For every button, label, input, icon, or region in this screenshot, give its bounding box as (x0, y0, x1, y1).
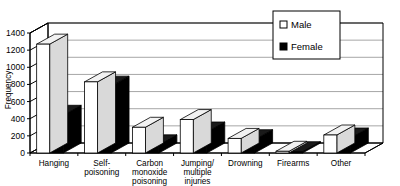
bar-front (276, 151, 289, 153)
bar-side (50, 34, 68, 153)
y-axis-tick-label: 400 (11, 114, 25, 124)
x-axis-category-label: Carbonmonoxidepoisoning (132, 159, 168, 186)
bar-front (132, 127, 145, 153)
x-axis-category-label: Hanging (39, 159, 70, 168)
chart-container: 0200400600800100012001400 HangingSelf-po… (0, 0, 400, 186)
x-axis-category-label: Other (331, 159, 352, 168)
y-axis-tick-label: 1400 (6, 28, 25, 38)
x-axis-category-label: Drowning (228, 159, 263, 168)
y-axis-tick-label: 200 (11, 131, 25, 141)
legend: Male Female (273, 11, 340, 59)
bar-front (324, 135, 337, 153)
x-axis-category-label: Jumping/multipleinjuries (181, 159, 215, 186)
bar-front (228, 138, 241, 153)
legend-swatch-female-icon (280, 43, 287, 50)
x-axis-category-label: Self-poisoning (84, 159, 119, 177)
bar-side (98, 72, 116, 153)
x-axis-category-label: Firearms (277, 159, 309, 168)
bar-male (85, 72, 116, 153)
bar-front (85, 82, 98, 153)
legend-label-female: Female (291, 41, 323, 52)
y-axis-tick-label: 1200 (6, 45, 25, 55)
y-axis-title-text: Frequency (4, 70, 13, 110)
y-axis-title: Frequency (4, 70, 13, 110)
bar-front (180, 120, 193, 153)
frequency-bar-chart: 0200400600800100012001400 HangingSelf-po… (0, 0, 400, 186)
bar-front (37, 44, 50, 153)
y-axis-tick-label: 0 (20, 148, 25, 158)
bar-male (37, 34, 68, 153)
legend-label-male: Male (291, 19, 312, 30)
legend-swatch-male-icon (280, 21, 287, 28)
x-axis-category-labels: HangingSelf-poisoningCarbonmonoxidepoiso… (39, 159, 352, 186)
